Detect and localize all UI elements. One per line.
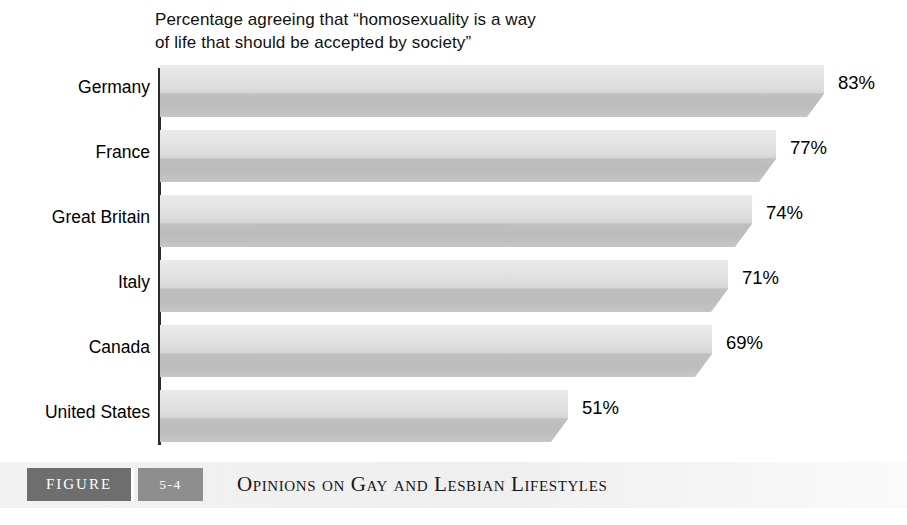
figure-caption-title: Opinions on Gay and Lesbian Lifestyles bbox=[237, 468, 607, 501]
bar-great-britain[interactable] bbox=[160, 195, 752, 247]
bar-germany[interactable] bbox=[160, 65, 824, 117]
bar-shape bbox=[160, 65, 824, 117]
value-label-germany: 83% bbox=[838, 72, 875, 94]
bar-row: United States 51% bbox=[0, 385, 907, 447]
bar-row: Italy 71% bbox=[0, 255, 907, 317]
bar-shape bbox=[160, 390, 568, 442]
bar-united-states[interactable] bbox=[160, 390, 568, 442]
bar-canada[interactable] bbox=[160, 325, 712, 377]
bar-shape bbox=[160, 130, 776, 182]
value-label-canada: 69% bbox=[726, 332, 763, 354]
category-label-canada: Canada bbox=[89, 337, 150, 358]
figure-caption-band: FIGURE 5-4 Opinions on Gay and Lesbian L… bbox=[0, 462, 907, 508]
figure-caption-inner: FIGURE 5-4 Opinions on Gay and Lesbian L… bbox=[27, 468, 607, 501]
category-label-germany: Germany bbox=[78, 77, 150, 98]
category-label-united-states: United States bbox=[45, 402, 150, 423]
bar-shape bbox=[160, 260, 728, 312]
value-label-united-states: 51% bbox=[582, 397, 619, 419]
figure-label-badge: FIGURE bbox=[27, 468, 134, 501]
bar-shape bbox=[160, 325, 712, 377]
category-label-great-britain: Great Britain bbox=[52, 207, 150, 228]
chart-plot-area: Germany 83% France 77% Great Britain 74%… bbox=[0, 60, 907, 452]
bar-france[interactable] bbox=[160, 130, 776, 182]
bar-row: Great Britain 74% bbox=[0, 190, 907, 252]
category-label-italy: Italy bbox=[118, 272, 150, 293]
value-label-italy: 71% bbox=[742, 267, 779, 289]
bar-row: France 77% bbox=[0, 125, 907, 187]
bar-row: Canada 69% bbox=[0, 320, 907, 382]
bar-row: Germany 83% bbox=[0, 60, 907, 122]
category-label-france: France bbox=[96, 142, 150, 163]
bar-italy[interactable] bbox=[160, 260, 728, 312]
value-label-france: 77% bbox=[790, 137, 827, 159]
bar-shape bbox=[160, 195, 752, 247]
value-label-great-britain: 74% bbox=[766, 202, 803, 224]
chart-title: Percentage agreeing that “homosexuality … bbox=[155, 8, 715, 54]
figure-number-badge: 5-4 bbox=[138, 468, 203, 501]
